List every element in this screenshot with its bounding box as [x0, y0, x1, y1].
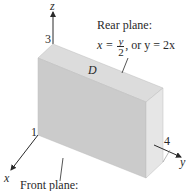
x-tick-label: 1: [31, 126, 37, 138]
equation-lhs: x =: [97, 38, 113, 52]
rear-plane-equation: x = y 2 , or y = 2x: [97, 36, 175, 57]
y-tick-leader: [163, 150, 170, 162]
region-label: D: [88, 64, 97, 76]
diagram-canvas: [0, 0, 188, 191]
y-tick-label: 4: [164, 135, 170, 147]
fraction-denominator: 2: [117, 47, 124, 57]
z-tick-label: 3: [45, 33, 51, 45]
x-axis-label: x: [4, 172, 9, 184]
equation-rest: , or y = 2x: [125, 38, 175, 52]
x-axis: [11, 135, 38, 170]
equation-fraction: y 2: [117, 36, 124, 57]
z-axis-label: z: [50, 0, 55, 12]
box-side-face: [146, 88, 163, 178]
y-axis-label: y: [180, 156, 185, 168]
rear-plane-title: Rear plane:: [97, 19, 152, 31]
rear-plane-leader: [122, 58, 128, 73]
front-plane-title: Front plane:: [20, 179, 78, 191]
